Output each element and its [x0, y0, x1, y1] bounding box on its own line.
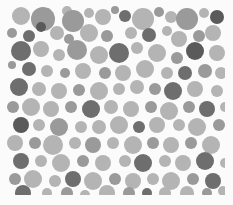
dot-circle: [43, 8, 51, 16]
dot-circle: [82, 100, 100, 118]
circle-pattern-graphic: [7, 3, 225, 195]
dot-circle: [35, 155, 47, 167]
dot-circle: [136, 60, 154, 78]
dot-circle: [198, 64, 212, 78]
dot-circle: [202, 136, 220, 154]
dot-circle: [130, 80, 144, 94]
dot-circle: [99, 185, 115, 195]
dot-circle: [199, 101, 215, 117]
dot-circle: [50, 118, 68, 136]
dot-circle: [119, 155, 131, 167]
dot-circle: [165, 11, 177, 23]
dot-circle: [147, 173, 159, 185]
dot-circle: [133, 121, 145, 133]
dot-circle: [199, 8, 209, 18]
dot-circle: [186, 42, 204, 60]
dot-circle: [211, 85, 223, 97]
dot-circle: [142, 188, 152, 195]
dot-circle: [7, 135, 23, 151]
dot-circle: [10, 78, 28, 96]
dot-circle: [124, 136, 142, 154]
dot-circle: [115, 65, 131, 81]
dot-circle: [220, 158, 225, 168]
dot-circle: [142, 28, 156, 42]
dot-circle: [149, 83, 161, 95]
dot-circle: [188, 118, 206, 136]
dot-circle: [159, 155, 171, 167]
dot-circle: [92, 120, 106, 134]
dot-circle: [196, 152, 214, 170]
dot-circle: [33, 119, 45, 131]
dot-circle: [175, 155, 191, 171]
dot-circle: [210, 10, 224, 24]
dot-circle: [171, 31, 187, 47]
dot-circle: [65, 171, 81, 187]
dot-circle: [32, 82, 46, 96]
dot-circle: [51, 83, 67, 99]
dot-circle: [154, 7, 164, 17]
dot-circle: [134, 154, 152, 172]
dot-circle: [36, 22, 46, 32]
dot-circle: [53, 49, 65, 61]
dot-circle: [113, 83, 125, 95]
dot-circle: [164, 82, 182, 100]
dot-circle: [43, 101, 59, 117]
dot-circle: [111, 6, 119, 14]
dot-circle: [13, 153, 29, 169]
dot-circle: [149, 117, 165, 133]
dot-circle: [215, 67, 225, 79]
dot-circle: [80, 24, 98, 42]
dot-circle: [185, 137, 197, 149]
dot-circle: [218, 186, 225, 195]
dot-circle: [80, 190, 90, 195]
dot-circle: [220, 102, 225, 112]
dot-circle: [90, 46, 108, 64]
dot-circle: [61, 187, 73, 195]
dot-circle: [43, 135, 63, 155]
dot-circle: [104, 100, 118, 114]
image-canvas: [0, 0, 233, 205]
dot-circle: [73, 84, 85, 96]
dot-circle: [110, 116, 128, 134]
dot-circle: [95, 9, 111, 25]
dot-circle: [33, 41, 49, 57]
dot-circle: [41, 65, 53, 77]
dot-circle: [67, 40, 87, 60]
dot-circle: [176, 8, 198, 30]
dot-circle: [205, 25, 221, 41]
dot-circle: [77, 155, 89, 167]
dot-circle: [60, 68, 70, 78]
dot-circle: [119, 10, 131, 22]
dot-circle: [8, 61, 16, 69]
dot-circle: [29, 137, 41, 149]
dot-circle: [131, 42, 143, 54]
dot-circle: [7, 101, 19, 113]
dot-circle: [62, 10, 84, 32]
dot-circle: [84, 172, 102, 190]
dot-circle: [180, 186, 194, 195]
dot-circle: [161, 67, 173, 79]
dot-circle: [171, 52, 183, 64]
dot-circle: [69, 137, 81, 149]
dot-circle: [145, 101, 157, 113]
dot-circle: [187, 173, 199, 185]
dot-circle: [49, 175, 61, 187]
dot-circle: [132, 8, 154, 30]
dot-circle: [101, 30, 113, 42]
dot-circle: [162, 26, 172, 36]
dot-circle: [183, 101, 195, 113]
dot-circle: [13, 117, 29, 133]
dot-circle: [11, 41, 31, 61]
dot-circle: [75, 63, 91, 79]
dot-circle: [23, 30, 35, 42]
dot-circle: [12, 7, 30, 25]
dot-circle: [193, 30, 205, 42]
dot-circle: [123, 101, 139, 117]
dot-circle: [24, 170, 42, 188]
dot-circle: [213, 119, 225, 131]
dot-circle: [65, 101, 77, 113]
dot-circle: [99, 67, 111, 79]
dot-circle: [160, 102, 178, 120]
dot-circle: [75, 121, 87, 133]
dot-circle: [107, 137, 119, 149]
